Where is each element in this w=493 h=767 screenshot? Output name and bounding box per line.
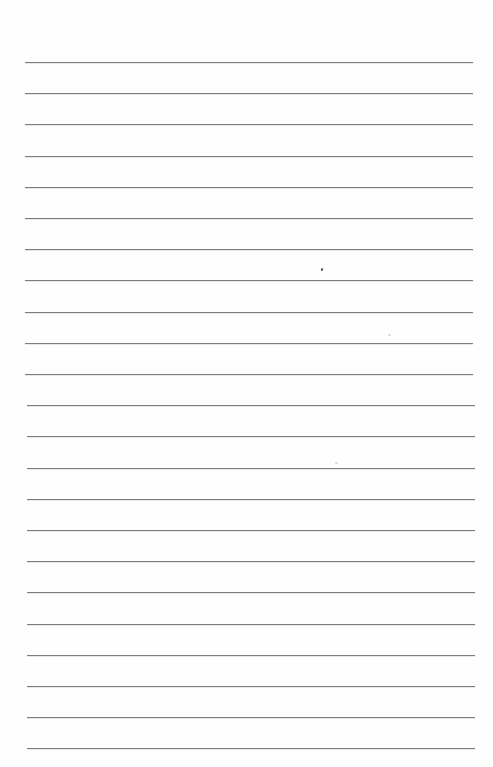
ruled-line: [27, 561, 475, 562]
ruled-line: [27, 592, 475, 593]
lined-paper-page: [0, 0, 493, 767]
ruled-line: [25, 62, 473, 63]
ruled-line: [27, 748, 475, 749]
ruled-line: [25, 93, 473, 94]
faint-speck-mark: [335, 462, 338, 464]
ruled-line: [27, 686, 475, 687]
ruled-line: [25, 187, 473, 188]
ruled-line: [27, 405, 475, 406]
ruled-line: [27, 436, 475, 437]
ruled-line: [27, 468, 475, 469]
ruled-line: [25, 280, 473, 281]
ink-speck-mark: [320, 268, 323, 272]
ruled-line: [25, 312, 473, 313]
faint-speck-mark: [388, 334, 391, 336]
ruled-line: [25, 218, 473, 219]
ruled-line: [27, 624, 475, 625]
ruled-line: [25, 124, 473, 125]
ruled-line: [25, 343, 473, 344]
ruled-line: [27, 530, 475, 531]
ruled-line: [25, 374, 473, 375]
ruled-line: [25, 156, 473, 157]
ruled-line: [27, 717, 475, 718]
ruled-line: [27, 499, 475, 500]
ruled-line: [25, 249, 473, 250]
ruled-line: [27, 655, 475, 656]
